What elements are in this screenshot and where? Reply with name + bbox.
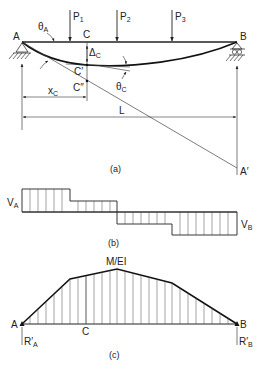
label-c-a: A bbox=[11, 319, 18, 330]
label-delta-c: ΔC bbox=[89, 47, 101, 59]
label-a: A bbox=[13, 31, 20, 42]
load-p1: P1 bbox=[70, 10, 84, 41]
label-c: C bbox=[83, 29, 90, 40]
label-theta-c: θC bbox=[116, 81, 127, 93]
svg-text:P3: P3 bbox=[175, 11, 186, 23]
tangent-line-a bbox=[22, 42, 237, 168]
label-v-a: VA bbox=[7, 197, 19, 209]
beam-deflection-figure: A B P1 P2 P3 θA bbox=[0, 0, 263, 369]
label-m-ei: M/EI bbox=[106, 256, 127, 267]
svg-text:P1: P1 bbox=[73, 11, 84, 23]
svg-text:P2: P2 bbox=[120, 11, 131, 23]
label-c-b: B bbox=[240, 319, 247, 330]
panel-a-beam-diagram: A B P1 P2 P3 θA bbox=[9, 10, 249, 177]
caption-a: (a) bbox=[110, 164, 121, 174]
label-r-b: R′B bbox=[239, 336, 253, 348]
label-theta-a: θA bbox=[38, 21, 49, 33]
label-x-c: xC bbox=[48, 85, 58, 97]
caption-c: (c) bbox=[109, 350, 120, 360]
label-b: B bbox=[240, 31, 247, 42]
caption-b: (b) bbox=[108, 238, 119, 248]
label-r-a: R′A bbox=[24, 336, 38, 348]
label-v-b: VB bbox=[241, 219, 253, 231]
label-c-prime: C′ bbox=[74, 66, 83, 77]
panel-b-shear-diagram: VA VB (b) bbox=[7, 189, 253, 248]
label-c-double-prime: C″ bbox=[73, 82, 84, 93]
panel-c-moment-diagram: M/EI A B C R′A R′B (c) bbox=[11, 256, 253, 360]
label-a-prime: A′ bbox=[240, 166, 249, 177]
label-c-mid: C bbox=[82, 326, 89, 337]
deflected-curve bbox=[22, 42, 237, 66]
load-p3: P3 bbox=[172, 10, 186, 41]
load-p2: P2 bbox=[117, 10, 131, 41]
label-span-l: L bbox=[119, 105, 125, 116]
